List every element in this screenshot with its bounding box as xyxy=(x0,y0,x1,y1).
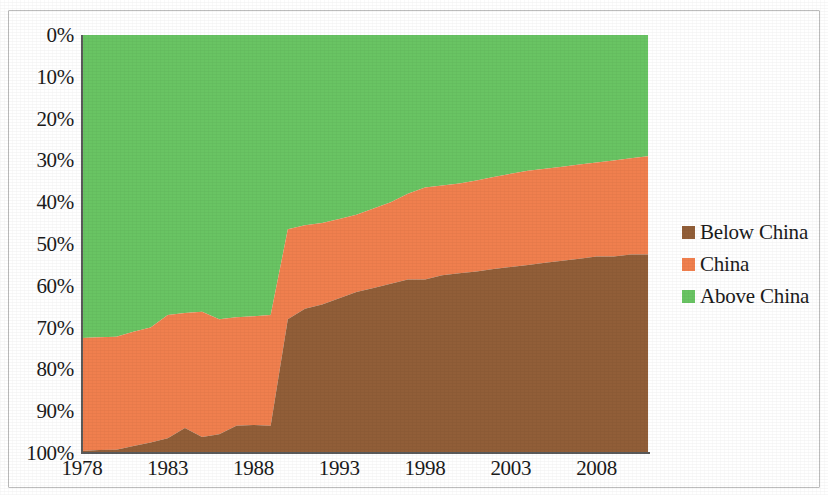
area-series-svg xyxy=(82,35,648,453)
x-tick-label: 2003 xyxy=(490,456,531,481)
y-tick-label: 60% xyxy=(36,273,74,298)
legend-item-label: China xyxy=(700,252,749,277)
y-tick-label: 90% xyxy=(36,399,74,424)
x-tick-label: 2008 xyxy=(576,456,617,481)
x-tick-label: 1993 xyxy=(319,456,360,481)
y-tick-label: 70% xyxy=(36,315,74,340)
legend-item-above-china[interactable]: Above China xyxy=(682,280,822,312)
legend-item-label: Above China xyxy=(700,284,809,309)
chart-legend: Below China China Above China xyxy=(682,216,822,312)
legend-swatch-icon xyxy=(682,290,695,303)
x-tick-label: 1978 xyxy=(62,456,103,481)
y-axis: 0% 10% 20% 30% 40% 50% 60% 70% 80% 90% 1… xyxy=(8,35,78,453)
y-tick-label: 80% xyxy=(36,357,74,382)
legend-item-label: Below China xyxy=(700,220,808,245)
legend-item-china[interactable]: China xyxy=(682,248,822,280)
x-tick-label: 1998 xyxy=(405,456,446,481)
legend-swatch-icon xyxy=(682,258,695,271)
y-tick-label: 0% xyxy=(47,23,74,48)
y-tick-label: 50% xyxy=(36,232,74,257)
y-tick-label: 30% xyxy=(36,148,74,173)
y-axis-line xyxy=(81,35,83,454)
x-tick-label: 1988 xyxy=(233,456,274,481)
y-tick-label: 10% xyxy=(36,64,74,89)
plot-area xyxy=(82,35,648,453)
y-tick-label: 20% xyxy=(36,106,74,131)
stacked-area-chart-figure: 0% 10% 20% 30% 40% 50% 60% 70% 80% 90% 1… xyxy=(0,0,828,495)
x-axis: 1978 1983 1988 1993 1998 2003 2008 xyxy=(0,456,700,490)
legend-item-below-china[interactable]: Below China xyxy=(682,216,822,248)
x-axis-line xyxy=(82,452,650,454)
y-tick-label: 40% xyxy=(36,190,74,215)
x-tick-label: 1983 xyxy=(147,456,188,481)
legend-swatch-icon xyxy=(682,226,695,239)
